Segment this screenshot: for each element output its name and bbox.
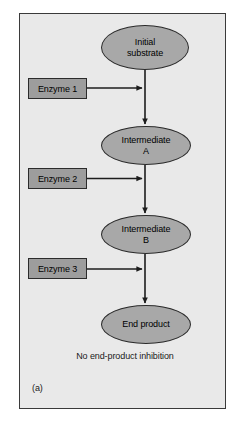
enzyme-box-2: Enzyme 2 — [28, 168, 87, 189]
enzyme-2-label: Enzyme 2 — [38, 174, 77, 184]
node-line-2: A — [122, 146, 171, 157]
node-line-1: Initial — [135, 37, 155, 47]
node-intermediate-a: Intermediate A — [101, 126, 191, 165]
node-intermediate-a-text: Intermediate A — [122, 135, 171, 157]
node-intermediate-b: Intermediate B — [101, 215, 191, 254]
node-initial-substrate: Initial substrate — [101, 25, 189, 70]
node-line-1: Intermediate — [122, 224, 171, 234]
figure-caption: No end-product inhibition — [40, 351, 210, 362]
figure-panel: Initial substrate Intermediate A Interme… — [19, 13, 226, 409]
node-line-1: Intermediate — [122, 135, 171, 145]
node-initial-substrate-text: Initial substrate — [127, 37, 163, 59]
enzyme-1-label: Enzyme 1 — [38, 84, 77, 94]
node-end-product: End product — [101, 305, 191, 344]
node-intermediate-b-text: Intermediate B — [122, 224, 171, 246]
node-line-2: B — [122, 235, 171, 246]
panel-label: (a) — [32, 383, 43, 394]
enzyme-box-3: Enzyme 3 — [28, 258, 87, 279]
enzyme-3-label: Enzyme 3 — [38, 264, 77, 274]
node-line-2: substrate — [127, 48, 163, 59]
enzyme-box-1: Enzyme 1 — [28, 78, 87, 99]
node-end-product-text: End product — [122, 319, 169, 330]
